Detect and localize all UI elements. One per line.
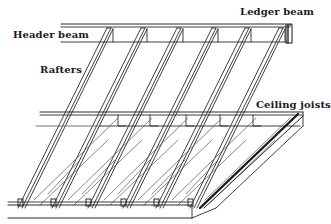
header-beam [61,24,292,42]
sill-plate [8,202,216,218]
ledger-beam [286,25,292,43]
ceiling-joists-label: Ceiling joists [256,99,331,111]
rafters-label: Rafters [40,64,82,76]
ledger-beam-label: Ledger beam [240,6,314,18]
header-beam-label: Header beam [13,29,89,41]
ceiling-joists [34,118,290,205]
